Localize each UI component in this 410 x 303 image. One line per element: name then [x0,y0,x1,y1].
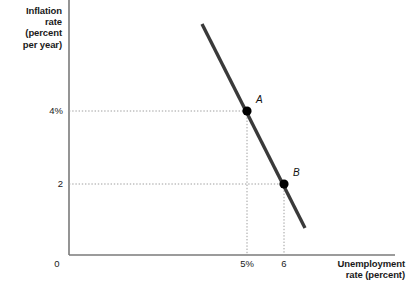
x-tick-label-6: 6 [270,258,298,269]
phillips-curve-line [202,24,305,228]
x-axis-title: Unemployment rate (percent) [300,258,405,280]
data-point-label-b: B [293,167,300,179]
data-point-b-marker [279,179,288,188]
y-axis-title: Inflation rate (percent per year) [0,5,62,50]
y-tick-label-4: 4% [28,105,63,116]
phillips-curve-chart: Inflation rate (percent per year) Unempl… [0,0,410,303]
data-point-a-marker [242,106,251,115]
x-tick-label-5: 5% [232,258,262,269]
data-point-label-a: A [256,94,263,106]
y-tick-label-2: 2 [28,178,63,189]
origin-label: 0 [48,258,66,269]
